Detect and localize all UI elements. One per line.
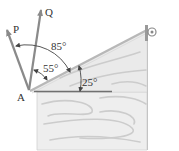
hinge-pin-icon [145,25,156,41]
force-Q-label: Q [45,6,53,18]
point-A-label: A [17,91,25,103]
wooden-block [30,28,148,150]
force-diagram: Q P 85° 55° 25° A [0,0,179,151]
force-Q-arrow [29,10,41,90]
force-P-arrow [7,30,29,90]
force-P-label: P [13,23,19,35]
angle-25-label: 25° [82,76,97,88]
angle-85-label: 85° [51,40,66,52]
angle-55-label: 55° [43,62,58,74]
